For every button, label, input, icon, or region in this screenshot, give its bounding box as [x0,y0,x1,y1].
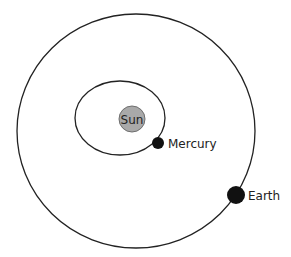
earth-label: Earth [248,189,280,203]
sun-label: Sun [121,113,144,127]
mercury-planet-icon [152,137,164,149]
mercury-label: Mercury [168,137,217,151]
earth-planet-icon [227,186,245,204]
solar-system-diagram: Sun Mercury Earth [0,0,291,257]
